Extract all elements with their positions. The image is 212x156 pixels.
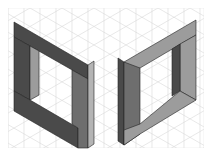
left-column-front-face: [14, 37, 30, 100]
left-bracket-shape: [14, 22, 94, 148]
right-right-column-inner-face: [172, 44, 180, 96]
left-right-column-side-face: [88, 61, 94, 148]
left-column-inner-face: [30, 46, 39, 100]
right-right-column-front-face: [180, 35, 196, 100]
isometric-diagram: [0, 0, 212, 156]
right-left-column-side-face: [118, 58, 124, 145]
diagram-canvas: [0, 0, 212, 156]
left-bottom-bar-face: [14, 91, 78, 148]
